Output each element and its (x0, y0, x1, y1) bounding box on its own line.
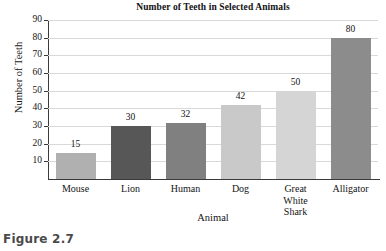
bar-value-label: 32 (166, 110, 206, 120)
y-tick-label: 10 (20, 156, 42, 166)
figure-caption: Figure 2.7 (3, 232, 74, 246)
y-tick-label: 20 (20, 139, 42, 149)
x-axis-category-label-line: Alligator (321, 183, 381, 195)
bar-value-label: 80 (331, 25, 371, 35)
gridline (48, 126, 378, 127)
y-tick-label: 80 (20, 33, 42, 43)
bar (331, 38, 371, 179)
y-tick-label: 50 (20, 86, 42, 96)
y-tick-label: 60 (20, 68, 42, 78)
x-axis-title: Animal (48, 212, 378, 223)
figure-container: Number of Teeth in Selected Animals Numb… (0, 0, 386, 251)
x-axis-category-label: Alligator (321, 183, 381, 195)
y-tick-label: 30 (20, 121, 42, 131)
plot-area: 153032425080 (48, 20, 378, 179)
bar-value-label: 42 (221, 92, 261, 102)
gridline (48, 144, 378, 145)
x-axis-category-label-line: Human (156, 183, 216, 195)
bar-value-label: 50 (276, 78, 316, 88)
y-tick-label: 40 (20, 103, 42, 113)
bar (111, 126, 151, 179)
x-axis-category-label-line: Great (266, 183, 326, 195)
chart-title: Number of Teeth in Selected Animals (48, 2, 378, 12)
x-axis-category-label-line: White (266, 195, 326, 207)
x-axis-category-label-line: Lion (101, 183, 161, 195)
gridline (48, 73, 378, 74)
gridline (48, 91, 378, 92)
bar-value-label: 30 (111, 113, 151, 123)
y-tick-label: 90 (20, 15, 42, 25)
x-axis-line (48, 179, 380, 180)
x-axis-category-label-line: Mouse (46, 183, 106, 195)
x-axis-category-label: Human (156, 183, 216, 195)
bar (221, 105, 261, 179)
x-axis-category-label: Mouse (46, 183, 106, 195)
gridline (48, 55, 378, 56)
bar (276, 91, 316, 179)
gridline (48, 161, 378, 162)
x-axis-category-label: Lion (101, 183, 161, 195)
bar (166, 123, 206, 180)
gridline (48, 108, 378, 109)
y-tick-label: 70 (20, 50, 42, 60)
x-axis-category-label-line: Dog (211, 183, 271, 195)
bar (56, 153, 96, 180)
gridline (48, 38, 378, 39)
x-axis-category-label: Dog (211, 183, 271, 195)
gridline (48, 20, 378, 21)
bar-value-label: 15 (56, 140, 96, 150)
